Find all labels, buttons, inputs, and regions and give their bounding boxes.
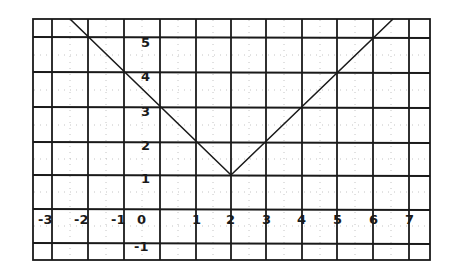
gridline-y-neg1 bbox=[33, 243, 430, 244]
gridline-y-5 bbox=[33, 37, 430, 38]
gridline-y-3 bbox=[33, 107, 430, 108]
y-tick-label: 2 bbox=[141, 138, 150, 153]
y-tick-label: 1 bbox=[141, 171, 150, 186]
y-tick-label: 3 bbox=[141, 104, 150, 119]
x-axis bbox=[33, 209, 430, 210]
x-tick-label: 1 bbox=[192, 212, 201, 227]
x-tick-label: 5 bbox=[333, 212, 342, 227]
x-tick-label: 6 bbox=[369, 212, 378, 227]
gridline-y-2 bbox=[33, 142, 430, 143]
x-tick-label: 0 bbox=[137, 212, 146, 227]
x-tick-label: 7 bbox=[405, 212, 414, 227]
x-tick-label: -1 bbox=[111, 212, 125, 227]
y-tick-label: 4 bbox=[141, 69, 150, 84]
x-tick-label: -3 bbox=[38, 212, 52, 227]
graph-of-absolute-value-function: -3 -2 -1 0 1 2 3 4 5 6 7 5 4 3 2 1 -1 bbox=[0, 0, 452, 277]
x-tick-label: 4 bbox=[297, 212, 306, 227]
x-tick-labels: -3 -2 -1 0 1 2 3 4 5 6 7 bbox=[38, 212, 414, 227]
x-tick-label: 3 bbox=[262, 212, 271, 227]
gridline-y-4 bbox=[33, 72, 430, 73]
x-tick-label: 2 bbox=[226, 212, 235, 227]
x-tick-label: -2 bbox=[74, 212, 88, 227]
y-tick-label: -1 bbox=[134, 239, 148, 254]
y-tick-label: 5 bbox=[141, 35, 150, 50]
